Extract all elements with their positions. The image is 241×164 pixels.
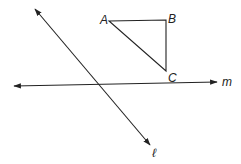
geometry-diagram: A B C ℓ m bbox=[0, 0, 241, 164]
triangle-abc bbox=[109, 20, 166, 71]
line-label-l: ℓ bbox=[152, 146, 157, 160]
line-m bbox=[14, 82, 217, 86]
line-label-m: m bbox=[222, 75, 232, 89]
line-l bbox=[35, 9, 150, 145]
vertex-label-a: A bbox=[99, 13, 108, 27]
vertex-label-c: C bbox=[168, 71, 177, 85]
vertex-label-b: B bbox=[168, 12, 176, 26]
